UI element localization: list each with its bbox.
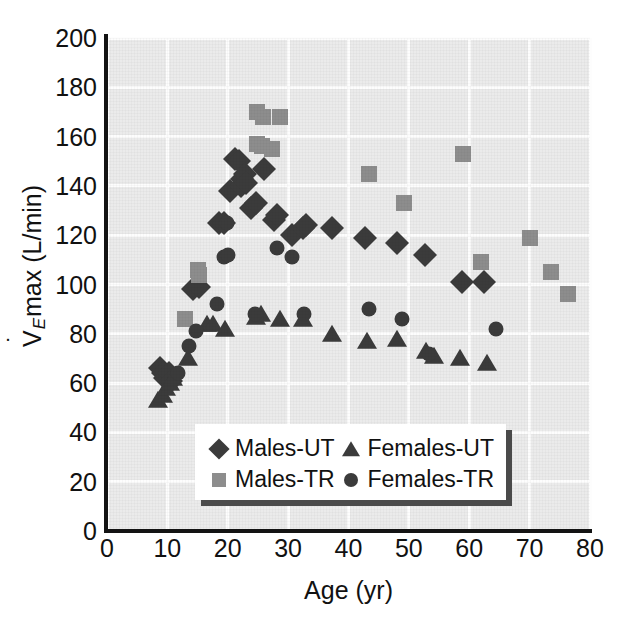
triangle-marker-icon <box>341 439 361 459</box>
data-point-diamond <box>472 270 496 294</box>
y-tick-label: 200 <box>0 26 107 51</box>
y-axis-line <box>104 34 108 533</box>
x-tick-label: 20 <box>198 536 258 561</box>
circle-marker-icon <box>341 470 361 490</box>
y-tick-label: 20 <box>0 469 107 494</box>
data-point-circle <box>284 250 299 265</box>
x-tick-label: 10 <box>137 536 197 561</box>
data-point-circle <box>296 307 311 322</box>
gridline-horizontal <box>107 234 590 237</box>
data-point-square <box>396 195 412 211</box>
data-point-circle <box>362 302 377 317</box>
y-tick-label: 140 <box>0 173 107 198</box>
scatter-chart-figure: VEmax (L/min) 02040608010012014016018020… <box>0 0 625 622</box>
data-point-triangle <box>387 329 407 346</box>
data-point-triangle <box>322 324 342 341</box>
data-point-diamond <box>252 157 276 181</box>
x-axis-title: Age (yr) <box>107 576 590 605</box>
data-point-triangle <box>477 354 497 371</box>
y-tick-label: 60 <box>0 371 107 396</box>
legend-label-females-ut: Females-UT <box>367 437 494 460</box>
y-tick-label: 40 <box>0 420 107 445</box>
data-point-circle <box>171 366 186 381</box>
legend-label-males-ut: Males-UT <box>235 437 335 460</box>
x-tick-label: 40 <box>319 536 379 561</box>
diamond-marker-icon <box>209 439 229 459</box>
data-point-square <box>272 109 288 125</box>
data-point-square <box>264 141 280 157</box>
y-tick-label: 120 <box>0 223 107 248</box>
data-point-triangle <box>450 349 470 366</box>
legend-row-2: Males-TR Females-TR <box>209 464 494 495</box>
data-point-circle <box>181 339 196 354</box>
data-point-circle <box>220 247 235 262</box>
data-point-square <box>191 267 207 283</box>
x-tick-label: 60 <box>439 536 499 561</box>
data-point-circle <box>247 307 262 322</box>
gridline-horizontal <box>107 332 590 335</box>
data-point-triangle <box>270 310 290 327</box>
data-point-circle <box>489 321 504 336</box>
gridline-horizontal <box>107 283 590 286</box>
data-point-square <box>361 166 377 182</box>
legend-row-1: Males-UT Females-UT <box>209 433 494 464</box>
gridline-horizontal <box>107 37 590 40</box>
gridline-horizontal <box>107 135 590 138</box>
data-point-square <box>543 264 559 280</box>
chart-legend: Males-UT Females-UT Males-TR Females-TR <box>195 424 506 500</box>
data-point-circle <box>270 240 285 255</box>
data-point-square <box>455 146 471 162</box>
gridline-horizontal <box>107 184 590 187</box>
legend-label-males-tr: Males-TR <box>235 468 335 491</box>
x-tick-label: 70 <box>500 536 560 561</box>
data-point-diamond <box>353 226 377 250</box>
x-axis-line <box>104 529 592 533</box>
legend-item-females-tr: Females-TR <box>341 468 494 491</box>
x-tick-label: 80 <box>560 536 620 561</box>
data-point-circle <box>220 215 235 230</box>
data-point-triangle <box>215 320 235 337</box>
data-point-circle <box>189 324 204 339</box>
gridline-horizontal <box>107 86 590 89</box>
x-tick-label: 0 <box>77 536 137 561</box>
data-point-circle <box>210 297 225 312</box>
y-tick-label: 80 <box>0 321 107 346</box>
x-tick-label: 30 <box>258 536 318 561</box>
legend-item-females-ut: Females-UT <box>341 437 494 460</box>
legend-label-females-tr: Females-TR <box>367 468 494 491</box>
y-axis-title-rest: max (L/min) <box>18 185 46 317</box>
y-tick-label: 180 <box>0 75 107 100</box>
data-point-square <box>255 109 271 125</box>
data-point-square <box>560 286 576 302</box>
legend-item-males-tr: Males-TR <box>209 468 341 491</box>
data-point-circle <box>421 346 436 361</box>
square-marker-icon <box>209 470 229 490</box>
data-point-triangle <box>357 332 377 349</box>
data-point-square <box>473 254 489 270</box>
data-point-square <box>522 230 538 246</box>
y-tick-label: 100 <box>0 272 107 297</box>
y-tick-label: 160 <box>0 124 107 149</box>
data-point-square <box>177 311 193 327</box>
data-point-circle <box>394 312 409 327</box>
legend-item-males-ut: Males-UT <box>209 437 341 460</box>
x-tick-label: 50 <box>379 536 439 561</box>
data-point-diamond <box>413 243 437 267</box>
